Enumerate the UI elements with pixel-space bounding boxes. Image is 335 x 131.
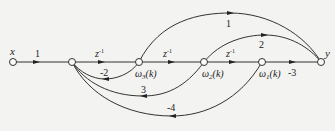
arrow-w1-a	[169, 114, 176, 118]
gain-w2-y: 2	[259, 39, 264, 50]
node-w3-label: ω3(k)	[135, 68, 157, 81]
gain-a-w3: z-1	[94, 48, 104, 59]
node-w2-label: ω2(k)	[202, 68, 224, 81]
node-w1	[259, 59, 266, 66]
gain-w3-y: 1	[226, 18, 231, 29]
gain-w1-y: -3	[288, 67, 296, 78]
arrow-w2-y	[261, 33, 268, 37]
gain-w3-a: -2	[100, 67, 108, 78]
arrow-a-w3	[98, 60, 105, 64]
node-x	[10, 59, 17, 66]
node-a	[69, 59, 76, 66]
signal-flow-graph: x y ω3(k) ω2(k) ω1(k) 1 z-1 z-1 z-1 -3 1…	[0, 0, 335, 131]
arrow-x-a	[33, 60, 40, 64]
gain-w1-a: -4	[167, 102, 175, 113]
arrow-w2-w1	[229, 60, 236, 64]
gain-w3-w2: z-1	[162, 48, 172, 59]
arrow-w3-w2	[168, 60, 175, 64]
node-w2	[201, 59, 208, 66]
gain-w2-a: 3	[141, 84, 146, 95]
node-y	[318, 59, 325, 66]
gain-w2-w1: z-1	[225, 48, 235, 59]
node-w1-label: ω1(k)	[259, 68, 281, 81]
arrow-w3-y	[227, 11, 234, 15]
arrow-w1-y	[289, 60, 296, 64]
node-y-label: y	[324, 47, 330, 59]
gain-x-a: 1	[35, 48, 40, 59]
node-x-label: x	[9, 45, 15, 57]
node-w3	[136, 59, 143, 66]
